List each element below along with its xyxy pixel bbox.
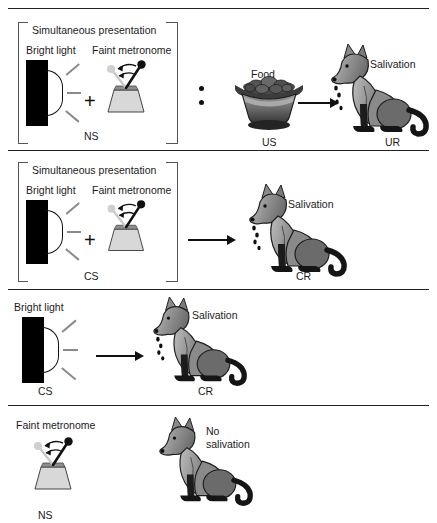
food-bowl-icon [231, 84, 307, 134]
dog-salivating-icon-3 [152, 297, 252, 389]
stimulus-label-bright-light-1: Bright light [26, 44, 76, 56]
us-code: US [262, 136, 277, 148]
stimulus-code-cs-3: CS [38, 385, 53, 397]
bright-light-icon-1 [26, 60, 82, 126]
panel-metronome-alone: Faint metronome NS No salivation [0, 405, 437, 523]
stimulus-label-bright-light-3: Bright light [14, 301, 64, 313]
response-code-cr-3: CR [198, 385, 213, 397]
metronome-icon-4 [22, 437, 86, 507]
dog-no-salivation-icon [158, 417, 258, 509]
response-code-cr-2: CR [296, 270, 311, 282]
bracket-label-1: Simultaneous presentation [32, 24, 156, 36]
response-code-ur: UR [385, 136, 400, 148]
figure-canvas: Simultaneous presentation Bright light +… [0, 0, 437, 523]
panel-light-alone: Bright light CS Salivation [0, 289, 437, 405]
bright-light-icon-3 [22, 317, 78, 383]
panel-acquisition: Simultaneous presentation Bright light +… [0, 8, 437, 150]
metronome-icon-1 [96, 60, 158, 130]
bright-light-icon-2 [26, 200, 82, 264]
stimulus-label-faint-metronome-2: Faint metronome [92, 184, 171, 196]
arrow-cs-to-cr-2 [188, 235, 240, 245]
stimulus-code-ns-1: NS [84, 130, 99, 142]
panel-conditioned-compound: Simultaneous presentation Bright light +… [0, 150, 437, 289]
bracket-label-2: Simultaneous presentation [32, 164, 156, 176]
dog-salivating-icon-1 [330, 44, 434, 140]
stimulus-code-ns-4: NS [38, 509, 53, 521]
pairing-colon [199, 86, 207, 112]
stimulus-label-bright-light-2: Bright light [26, 184, 76, 196]
stimulus-label-faint-metronome-4: Faint metronome [16, 419, 95, 431]
dog-salivating-icon-2 [248, 184, 352, 280]
stimulus-code-cs-2: CS [84, 270, 99, 282]
plus-sign-2: + [84, 230, 96, 250]
metronome-icon-2 [96, 200, 158, 268]
plus-sign-1: + [84, 91, 96, 111]
arrow-cs-to-cr-3 [96, 351, 148, 361]
stimulus-label-faint-metronome-1: Faint metronome [92, 44, 171, 56]
